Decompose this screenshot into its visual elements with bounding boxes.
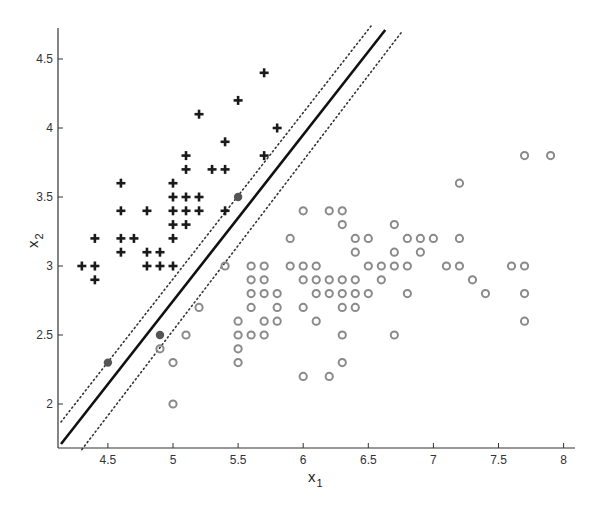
circle-marker (261, 276, 268, 283)
y-tick-label: 2 (46, 397, 53, 411)
circle-marker (287, 262, 294, 269)
plus-marker (182, 206, 191, 215)
circle-marker (300, 207, 307, 214)
plus-marker (182, 165, 191, 174)
plus-marker (182, 220, 191, 229)
plus-marker (208, 165, 217, 174)
circle-marker (235, 331, 242, 338)
circle-marker (430, 235, 437, 242)
x-tick-label: 5 (170, 453, 177, 467)
circle-marker (508, 262, 515, 269)
circle-marker (313, 276, 320, 283)
circle-marker (352, 290, 359, 297)
y-axis-label: x2 (24, 233, 45, 248)
circle-marker (339, 359, 346, 366)
circle-marker (404, 262, 411, 269)
plus-marker (169, 262, 178, 271)
circle-marker (365, 290, 372, 297)
circle-marker (261, 290, 268, 297)
circle-marker (404, 290, 411, 297)
circle-marker (482, 290, 489, 297)
plus-marker (221, 206, 230, 215)
circle-marker (521, 152, 528, 159)
x-axis-label: x1 (308, 468, 323, 489)
circle-marker (339, 331, 346, 338)
plus-marker (182, 151, 191, 160)
plus-marker (169, 179, 178, 188)
y-ticks: 22.533.544.5 (36, 52, 63, 411)
x-tick-label: 6 (300, 453, 307, 467)
circle-marker (391, 331, 398, 338)
circle-marker (391, 221, 398, 228)
circle-marker (456, 235, 463, 242)
plus-marker (155, 262, 164, 271)
plus-marker (116, 206, 125, 215)
plus-marker (142, 206, 151, 215)
plus-marker (142, 248, 151, 257)
circle-marker (352, 276, 359, 283)
x-tick-label: 8 (560, 453, 567, 467)
plus-marker (195, 110, 204, 119)
plus-marker (116, 234, 125, 243)
circle-marker (469, 276, 476, 283)
circle-marker (182, 331, 189, 338)
circle-marker (456, 180, 463, 187)
plus-marker (169, 206, 178, 215)
circle-marker (391, 249, 398, 256)
circle-marker (235, 359, 242, 366)
circle-marker (365, 262, 372, 269)
circle-marker (339, 290, 346, 297)
y-tick-label: 4 (46, 121, 53, 135)
circle-marker (300, 276, 307, 283)
circle-marker (169, 359, 176, 366)
x-tick-label: 4.5 (100, 453, 117, 467)
plus-marker (90, 234, 99, 243)
circle-marker (521, 318, 528, 325)
scatter-plot: 4.555.566.577.58 22.533.544.5 x1 x2 (0, 0, 601, 514)
circle-marker (521, 262, 528, 269)
plus-marker (195, 193, 204, 202)
circle-marker (352, 235, 359, 242)
circle-marker (248, 331, 255, 338)
circle-marker (365, 235, 372, 242)
y-tick-label: 3 (46, 259, 53, 273)
circle-marker (456, 262, 463, 269)
plus-marker (116, 179, 125, 188)
circle-marker (417, 249, 424, 256)
plus-marker (260, 68, 269, 77)
circle-marker (248, 262, 255, 269)
circle-marker (378, 262, 385, 269)
x-ticks: 4.555.566.577.58 (100, 443, 568, 467)
y-tick-label: 2.5 (36, 328, 53, 342)
plus-marker (169, 234, 178, 243)
circle-marker (404, 235, 411, 242)
plus-marker (195, 206, 204, 215)
circle-marker (313, 262, 320, 269)
circle-marker (521, 290, 528, 297)
circle-marker (313, 290, 320, 297)
circle-marker (547, 152, 554, 159)
circle-marker (339, 276, 346, 283)
circle-marker (274, 290, 281, 297)
plus-marker (129, 234, 138, 243)
circle-marker (326, 373, 333, 380)
circle-marker (326, 207, 333, 214)
plus-marker (155, 248, 164, 257)
circle-marker (300, 373, 307, 380)
plus-marker (182, 193, 191, 202)
support-vector-marker (104, 358, 112, 366)
plus-marker (221, 137, 230, 146)
circle-marker (417, 235, 424, 242)
x-tick-label: 7.5 (490, 453, 507, 467)
plus-marker (221, 165, 230, 174)
x-tick-label: 6.5 (360, 453, 377, 467)
circle-marker (248, 304, 255, 311)
margin-line (82, 31, 402, 449)
circle-marker (248, 290, 255, 297)
y-tick-label: 3.5 (36, 190, 53, 204)
circle-marker (313, 318, 320, 325)
support-vector-marker (156, 331, 164, 339)
circle-marker (326, 276, 333, 283)
circle-marker (300, 304, 307, 311)
plus-marker (273, 124, 282, 133)
